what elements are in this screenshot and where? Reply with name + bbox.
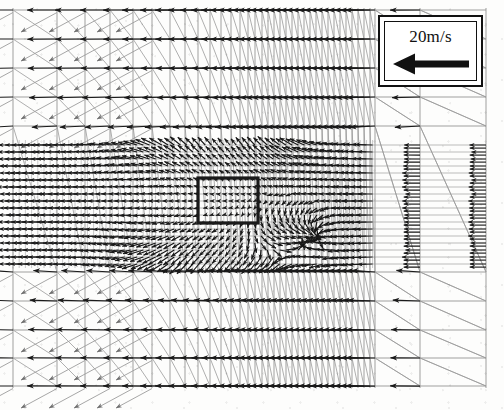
legend-inner-frame: 20m/s [384, 21, 477, 81]
vector-field-figure: 20m/s [0, 0, 504, 410]
velocity-scale-legend: 20m/s [378, 15, 483, 87]
left-arrow-icon [391, 52, 471, 76]
rectangular-obstacle [198, 178, 258, 223]
velocity-vectors-shear-layer [0, 136, 486, 274]
legend-scale-label: 20m/s [409, 28, 452, 45]
